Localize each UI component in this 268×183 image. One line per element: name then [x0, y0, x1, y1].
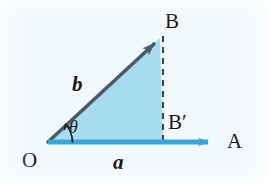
label-point-a: A [227, 131, 242, 152]
label-point-b: B [165, 11, 179, 32]
label-point-b-prime: B′ [168, 112, 187, 133]
vector-diagram-figure: O A B B′ b a θ [0, 0, 268, 183]
diagram-canvas [0, 0, 268, 183]
label-vector-b: b [72, 74, 83, 95]
label-point-origin: O [22, 150, 37, 171]
label-vector-a: a [113, 152, 124, 173]
label-angle-theta: θ [69, 118, 78, 136]
